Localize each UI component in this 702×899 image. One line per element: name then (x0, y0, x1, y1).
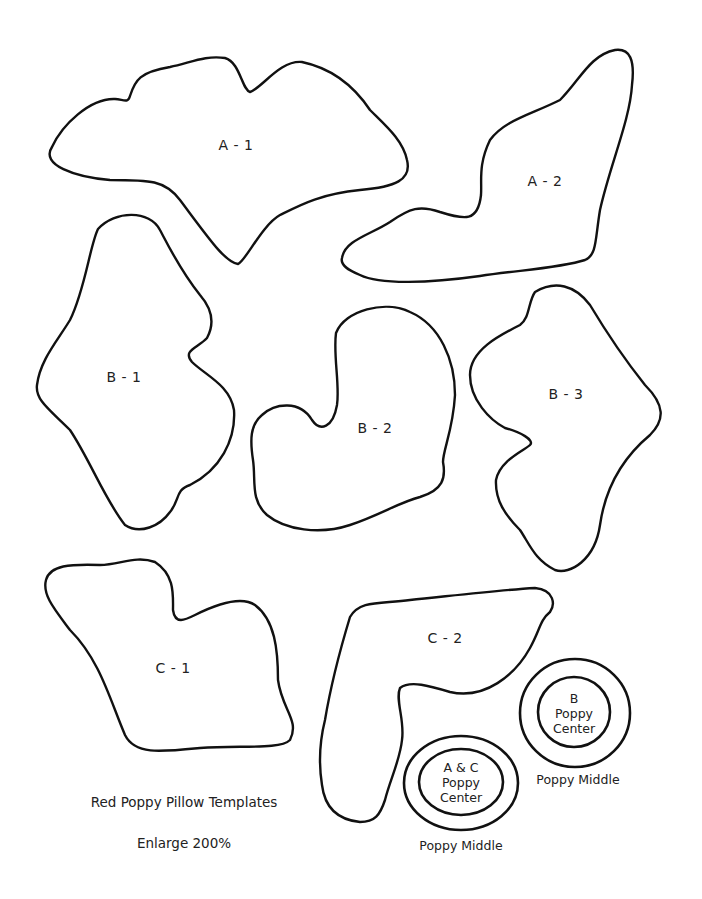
b-poppy-middle-label: Poppy Middle (536, 772, 619, 787)
ac-center-line2: Poppy (440, 775, 482, 790)
piece-b2-outline (251, 307, 455, 530)
piece-c1-outline (45, 560, 293, 751)
enlarge-instruction: Enlarge 200% (137, 835, 231, 851)
b-center-line1: B (553, 691, 595, 706)
piece-c2-label: C - 2 (427, 630, 462, 646)
ac-center-line1: A & C (440, 760, 482, 775)
piece-a1-label: A - 1 (219, 137, 254, 153)
piece-b3-label: B - 3 (549, 386, 584, 402)
piece-a2-label: A - 2 (528, 173, 563, 189)
ac-center-line3: Center (440, 790, 482, 805)
piece-b1-label: B - 1 (107, 369, 142, 385)
b-poppy-center-label: B Poppy Center (553, 691, 595, 736)
document-title: Red Poppy Pillow Templates (91, 794, 278, 810)
piece-c1-label: C - 1 (155, 660, 190, 676)
piece-b3-outline (470, 286, 661, 571)
template-sheet (0, 0, 702, 899)
ac-poppy-center-label: A & C Poppy Center (440, 760, 482, 805)
ac-poppy-middle-label: Poppy Middle (419, 838, 502, 853)
b-center-line3: Center (553, 721, 595, 736)
piece-b2-label: B - 2 (358, 420, 393, 436)
b-center-line2: Poppy (553, 706, 595, 721)
